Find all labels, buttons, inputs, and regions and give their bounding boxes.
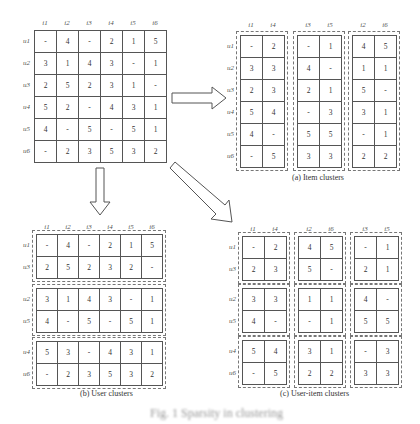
figure-caption: Fig. 1 Sparsity in clustering [150,406,283,421]
arrow-diagonal-icon [170,162,232,222]
arrow-right-icon [172,87,226,109]
arrow-down-icon [90,168,110,215]
arrows [0,0,420,424]
